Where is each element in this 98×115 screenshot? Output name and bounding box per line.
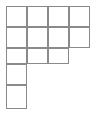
grid-cell-r2c3 — [48, 27, 69, 48]
grid-cell-r1c3 — [48, 6, 69, 27]
grid-cell-r2c2 — [27, 27, 48, 48]
grid-cell-r1c4 — [69, 6, 90, 27]
grid-cell-r3c2 — [27, 48, 48, 64]
grid-cell-r3c3 — [48, 48, 69, 64]
grid-cell-r5c1 — [6, 85, 27, 109]
grid-cell-r1c2 — [27, 6, 48, 27]
grid-cell-r2c1 — [6, 27, 27, 48]
grid-cell-layer — [0, 0, 98, 115]
grid-cell-r1c1 — [6, 6, 27, 27]
grid-cell-r3c1 — [6, 48, 27, 64]
grid-cell-r4c1 — [6, 64, 27, 85]
polyomino-figure — [0, 0, 98, 115]
grid-cell-r2c4 — [69, 27, 90, 48]
